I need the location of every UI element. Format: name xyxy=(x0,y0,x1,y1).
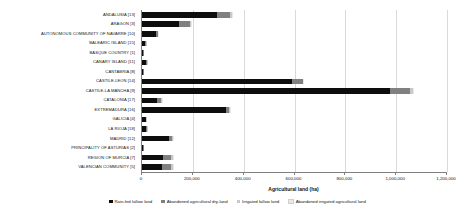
bar-row[interactable] xyxy=(142,10,447,20)
bar-row[interactable] xyxy=(142,162,447,172)
x-axis-tick xyxy=(243,172,244,175)
gridline xyxy=(447,10,448,172)
bar-row[interactable] xyxy=(142,115,447,125)
category-label: MADRID [12] xyxy=(110,136,135,142)
bar-segment[interactable] xyxy=(142,21,179,27)
bar-stack xyxy=(142,69,447,75)
legend-label: Irrigated fallow land xyxy=(242,199,279,204)
legend-label: Rain-fed fallow land xyxy=(115,199,153,204)
category-label: VALENCIAN COMMUNITY [5] xyxy=(78,164,135,170)
bar-stack xyxy=(142,117,447,123)
bar-stack xyxy=(142,79,447,85)
bar-stack xyxy=(142,60,447,66)
x-axis-title: Agricultural land (ha) xyxy=(141,186,446,192)
category-axis-labels: ANDALUSIA [13]ARAGON [3]AUTONOMOUS COMMU… xyxy=(0,10,138,172)
bar-segment[interactable] xyxy=(173,155,174,161)
category-label: CANARY ISLAND [11] xyxy=(93,59,135,65)
bar-segment[interactable] xyxy=(179,21,190,27)
bar-segment[interactable] xyxy=(142,98,157,104)
x-axis-tick-labels: 0200,000400,000600,000800,0001,000,0001,… xyxy=(0,176,475,186)
bar-segment[interactable] xyxy=(162,164,171,170)
bar-row[interactable] xyxy=(142,153,447,163)
category-label: CANTABRIA [8] xyxy=(105,69,135,75)
bar-stack xyxy=(142,98,447,104)
bar-stack xyxy=(142,50,447,56)
bar-segment[interactable] xyxy=(217,12,229,18)
legend-label: Abandoned irrigated agricultural land xyxy=(296,199,366,204)
category-label: CASTILE-LA MANCHA [9] xyxy=(86,88,135,94)
x-axis-tick xyxy=(395,172,396,175)
x-axis-tick xyxy=(294,172,295,175)
bar-row[interactable] xyxy=(142,134,447,144)
bar-segment[interactable] xyxy=(413,88,414,94)
bar-row[interactable] xyxy=(142,67,447,77)
bar-row[interactable] xyxy=(142,77,447,87)
category-label: CASTILE-LEON [14] xyxy=(96,78,135,84)
bar-row[interactable] xyxy=(142,124,447,134)
legend-swatch xyxy=(288,199,293,204)
legend-item[interactable]: Irrigated fallow land xyxy=(237,199,280,204)
bar-segment[interactable] xyxy=(142,155,163,161)
category-label: AUTONOMOUS COMMUNITY OF NAVARRE [10] xyxy=(41,31,135,37)
legend-swatch xyxy=(237,200,240,203)
bar-segment[interactable] xyxy=(390,88,410,94)
legend-swatch xyxy=(109,200,112,203)
bar-row[interactable] xyxy=(142,58,447,68)
x-axis-tick-label: 1,200,000 xyxy=(436,176,456,181)
bar-row[interactable] xyxy=(142,29,447,39)
x-axis-tick-label: 400,000 xyxy=(235,176,251,181)
legend-item[interactable]: Abandoned irrigated agricultural land xyxy=(288,199,366,204)
category-label: CATALONIA [17] xyxy=(104,97,135,103)
bar-stack xyxy=(142,164,447,170)
x-axis-tick-label: 1,000,000 xyxy=(385,176,405,181)
category-label: BALEARIC ISLAND [15] xyxy=(89,40,135,46)
bar-segment[interactable] xyxy=(292,79,302,85)
bar-segment[interactable] xyxy=(232,12,233,18)
category-label: ARAGON [3] xyxy=(111,21,135,27)
bar-segment[interactable] xyxy=(173,164,174,170)
x-axis-tick xyxy=(446,172,447,175)
bar-stack xyxy=(142,41,447,47)
category-label: BASQUE COUNTRY [1] xyxy=(90,50,135,56)
bar-segment[interactable] xyxy=(142,12,217,18)
bar-segment[interactable] xyxy=(142,79,292,85)
bar-row[interactable] xyxy=(142,39,447,49)
x-axis-tick-label: 0 xyxy=(140,176,142,181)
bar-row[interactable] xyxy=(142,143,447,153)
category-label: PRINCIPALITY OF ASTURIAS [2] xyxy=(71,145,135,151)
bar-stack xyxy=(142,145,447,151)
bar-row[interactable] xyxy=(142,86,447,96)
bar-stack xyxy=(142,155,447,161)
category-label: GALICIA [4] xyxy=(112,116,135,122)
x-axis-tick-label: 800,000 xyxy=(336,176,352,181)
category-label: EXTREMADURA [16] xyxy=(95,107,135,113)
plot-area xyxy=(141,10,447,172)
x-axis-tick xyxy=(344,172,345,175)
x-axis-tick xyxy=(192,172,193,175)
stacked-bar-chart: ANDALUSIA [13]ARAGON [3]AUTONOMOUS COMMU… xyxy=(0,0,475,217)
bar-stack xyxy=(142,31,447,37)
bar-stack xyxy=(142,126,447,132)
bar-segment[interactable] xyxy=(142,88,390,94)
bar-stack xyxy=(142,136,447,142)
bar-row[interactable] xyxy=(142,105,447,115)
bar-segment[interactable] xyxy=(142,136,169,142)
x-axis-tick-label: 600,000 xyxy=(286,176,302,181)
bar-stack xyxy=(142,88,447,94)
bar-segment[interactable] xyxy=(142,164,162,170)
category-label: REGION OF MURCIA [7] xyxy=(88,155,135,161)
legend-item[interactable]: Rain-fed fallow land xyxy=(109,199,152,204)
x-axis-tick-label: 200,000 xyxy=(184,176,200,181)
legend-item[interactable]: Abandoned agricultural dry-land xyxy=(161,199,227,204)
bar-stack xyxy=(142,12,447,18)
bar-segment[interactable] xyxy=(142,31,156,37)
bar-stack xyxy=(142,107,447,113)
bar-row[interactable] xyxy=(142,96,447,106)
bar-segment[interactable] xyxy=(163,155,172,161)
x-axis-tick xyxy=(141,172,142,175)
category-label: ANDALUSIA [13] xyxy=(103,12,135,18)
legend-swatch xyxy=(161,200,164,203)
bar-row[interactable] xyxy=(142,20,447,30)
bar-segment[interactable] xyxy=(142,107,226,113)
bar-row[interactable] xyxy=(142,48,447,58)
